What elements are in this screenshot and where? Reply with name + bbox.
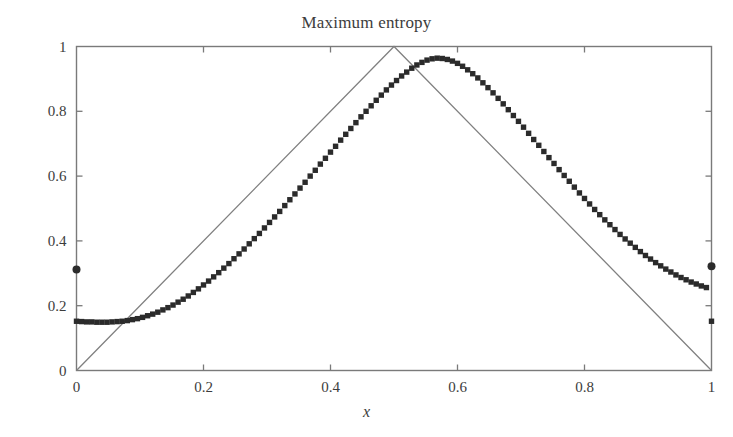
series-maximum-entropy-samples (74, 55, 714, 324)
series-boundary-outlier-points (73, 262, 716, 273)
x-tick-label: 0.4 (321, 379, 340, 396)
series-triangular-reference-line (77, 47, 712, 371)
y-tick-label: 1 (59, 38, 67, 55)
y-tick-label: 0.6 (48, 168, 67, 185)
y-tick-label: 0.2 (48, 297, 67, 314)
x-tick-label: 0.2 (194, 379, 213, 396)
x-tick-label: 0 (73, 379, 81, 396)
x-axis-label: x (0, 403, 733, 421)
y-tick-label: 0.4 (48, 232, 67, 249)
x-tick-label: 0.8 (575, 379, 594, 396)
chart-figure: Maximum entropy 00.20.40.60.8100.20.40.6… (0, 0, 733, 437)
plot-canvas (0, 0, 733, 437)
chart-title: Maximum entropy (0, 13, 733, 33)
x-tick-label: 1 (708, 379, 716, 396)
axis-ticks (77, 47, 712, 371)
y-tick-label: 0.8 (48, 103, 67, 120)
x-tick-label: 0.6 (448, 379, 467, 396)
plot-frame (77, 47, 712, 371)
y-tick-label: 0 (59, 362, 67, 379)
